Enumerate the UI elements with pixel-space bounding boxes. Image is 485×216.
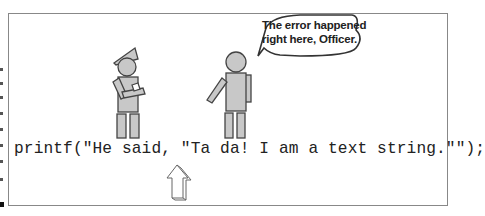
- witness-right-leg: [237, 113, 245, 138]
- officer-notepad: [132, 83, 140, 91]
- officer-head: [118, 58, 136, 76]
- witness-body: [226, 73, 246, 111]
- up-arrow-icon: [167, 165, 191, 200]
- printf-code-line: printf("He said, "Ta da! I am a text str…: [14, 140, 485, 158]
- witness-figure: [207, 52, 251, 138]
- officer-figure: [113, 48, 145, 138]
- witness-arm: [207, 78, 227, 103]
- witness-head: [226, 52, 246, 72]
- speech-line-2: right here, Officer.: [262, 32, 372, 46]
- officer-right-leg: [130, 114, 139, 138]
- speech-line-1: The error happened: [262, 18, 372, 32]
- speech-bubble-text: The error happened right here, Officer.: [262, 18, 372, 46]
- witness-left-leg: [225, 113, 233, 138]
- officer-left-leg: [117, 114, 126, 138]
